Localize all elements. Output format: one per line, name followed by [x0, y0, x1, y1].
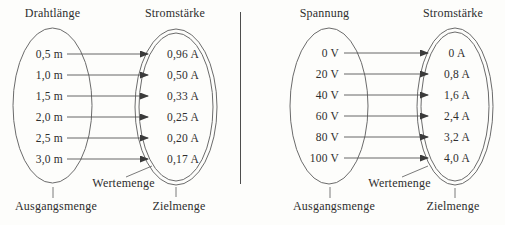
codomain-value: 0,50 A [152, 68, 214, 82]
domain-value: 60 V [269, 109, 339, 123]
domain-set-label: Ausgangsmenge [293, 199, 373, 213]
codomain-title: Stromstärke [125, 6, 225, 20]
domain-value: 80 V [269, 130, 339, 144]
codomain-value: 0,8 A [427, 67, 487, 81]
domain-value: 100 V [269, 151, 339, 165]
domain-value: 2,0 m [13, 110, 63, 124]
domain-value: 1,5 m [13, 89, 63, 103]
codomain-value: 0,96 A [152, 47, 214, 61]
domain-value: 1,0 m [13, 68, 63, 82]
vertical-divider-line [240, 12, 241, 184]
codomain-value: 3,2 A [427, 130, 487, 144]
domain-title: Drahtlänge [2, 6, 103, 20]
domain-value: 0 V [269, 46, 339, 60]
value-set-label: Wertemenge [361, 176, 438, 190]
mapping-diagram-voltage: Spannung Stromstärke 0 V 20 V 40 V 60 V … [252, 0, 505, 225]
target-set-label: Zielmenge [413, 199, 493, 213]
domain-value: 20 V [269, 67, 339, 81]
value-set-label: Wertemenge [85, 176, 162, 190]
codomain-value: 0,20 A [152, 131, 214, 145]
domain-value: 40 V [269, 88, 339, 102]
domain-value: 0,5 m [13, 47, 63, 61]
domain-value: 3,0 m [13, 152, 63, 166]
codomain-value: 0,17 A [152, 152, 214, 166]
codomain-value: 0,33 A [152, 89, 214, 103]
mapping-diagram-wire-length: Drahtlänge Stromstärke 0,5 m 1,0 m 1,5 m… [0, 0, 240, 225]
codomain-value: 0,25 A [152, 110, 214, 124]
domain-value: 2,5 m [13, 131, 63, 145]
codomain-value: 2,4 A [427, 109, 487, 123]
domain-set-label: Ausgangsmenge [15, 199, 95, 213]
mapping-arrow-icons [344, 53, 428, 158]
mapping-arrow-icons [67, 54, 148, 159]
codomain-title: Stromstärke [403, 6, 503, 20]
target-set-label: Zielmenge [139, 199, 219, 213]
codomain-value: 1,6 A [427, 88, 487, 102]
domain-title: Spannung [274, 6, 375, 20]
codomain-value: 0 A [427, 46, 487, 60]
codomain-value: 4,0 A [427, 151, 487, 165]
scanned-textbook-diagram-page: Drahtlänge Stromstärke 0,5 m 1,0 m 1,5 m… [0, 0, 505, 225]
